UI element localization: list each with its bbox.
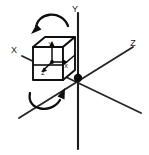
- cube-local-y-label: Y: [48, 41, 52, 47]
- cube-front-face: [33, 47, 63, 80]
- top-rotation-arrow: [31, 15, 68, 34]
- bottom-rotation-arrow: [30, 88, 65, 109]
- origin-point: [74, 74, 82, 82]
- top-rotation-arc: [36, 15, 68, 29]
- rotating-cube: Y X Z: [33, 37, 75, 80]
- cube-local-x-label: X: [64, 63, 68, 69]
- world-x-axis-label: X: [11, 45, 17, 55]
- top-rotation-arrowhead: [31, 24, 42, 34]
- world-z-axis-label: Z: [130, 38, 136, 48]
- coordinate-system-diagram: X Y Z: [0, 0, 149, 155]
- diagram-canvas: X Y Z: [0, 0, 149, 155]
- world-axes-group: [19, 13, 141, 149]
- world-y-axis-label: Y: [72, 4, 78, 14]
- cube-local-origin-point: [50, 60, 54, 64]
